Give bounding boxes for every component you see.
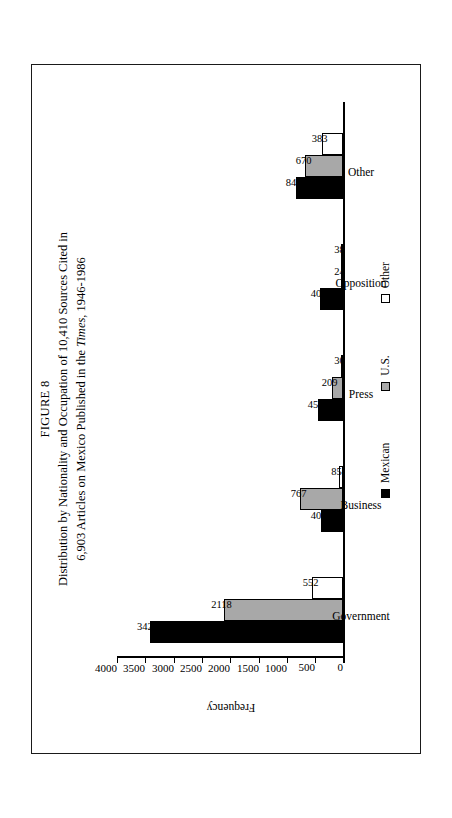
- y-axis-tick-label: 1500: [237, 663, 259, 674]
- legend-swatch-icon: [381, 489, 390, 498]
- legend-item-us[interactable]: U.S.: [379, 355, 391, 390]
- bar-value-label: 38: [334, 244, 345, 255]
- bar-mexican-press[interactable]: 457: [318, 399, 344, 421]
- bar-group: 45720930Press: [117, 324, 343, 435]
- bar-group-bars: 4052438: [117, 244, 343, 310]
- bar-mexican-other[interactable]: 845: [296, 177, 344, 199]
- figure-title-line-2: 6,903 Articles on Mexico Published in th…: [73, 64, 91, 754]
- bar-value-label: 383: [312, 133, 328, 144]
- figure-rotation-wrapper: FIGURE 8 Distribution by Nationality and…: [31, 64, 421, 754]
- y-axis-tick-label: 2000: [208, 663, 230, 674]
- x-axis-group-label: Business: [341, 499, 382, 511]
- bar-value-label: 3426: [137, 622, 158, 633]
- bar-us-press[interactable]: 209: [332, 377, 344, 399]
- bar-other-business[interactable]: 85: [339, 466, 344, 488]
- y-axis-tick-mark: [230, 658, 231, 663]
- x-axis-group-label: Press: [349, 388, 373, 400]
- bar-other-opposition[interactable]: 38: [341, 244, 343, 266]
- bar-us-government[interactable]: 2118: [224, 599, 344, 621]
- bar-other-government[interactable]: 552: [312, 577, 343, 599]
- figure-number: FIGURE 8: [37, 64, 55, 754]
- bar-group-bars: 40276785: [117, 466, 343, 532]
- plot-area: 05001000150020002500300035004000 Frequen…: [117, 102, 345, 658]
- legend-item-other[interactable]: Other: [379, 262, 391, 303]
- legend-item-mexican[interactable]: Mexican: [379, 443, 391, 498]
- y-axis-tick-label: 1000: [265, 663, 287, 674]
- figure-title-publication: Times: [74, 318, 88, 347]
- x-axis-line: [343, 102, 345, 658]
- bar-value-label: 845: [286, 177, 302, 188]
- y-axis-tick-label: 3000: [152, 663, 174, 674]
- legend-swatch-icon: [381, 382, 390, 391]
- bar-mexican-business[interactable]: 402: [321, 510, 344, 532]
- y-axis-tick-label: 500: [299, 663, 316, 674]
- chart-legend: MexicanU.S.Other: [379, 102, 391, 658]
- y-axis-tick-label: 2500: [180, 663, 202, 674]
- bar-group: 34262118552Government: [117, 547, 343, 658]
- legend-label: Mexican: [379, 443, 391, 483]
- bar-mexican-government[interactable]: 3426: [150, 621, 344, 643]
- y-axis-tick-label: 3500: [123, 663, 145, 674]
- y-axis-tick-mark: [343, 658, 344, 663]
- x-axis-group-label: Other: [348, 166, 374, 178]
- bar-group-bars: 45720930: [117, 355, 343, 421]
- bar-value-label: 405: [311, 288, 327, 299]
- bar-value-label: 85: [331, 467, 342, 478]
- bar-value-label: 767: [290, 489, 306, 500]
- bar-other-press[interactable]: 30: [341, 355, 343, 377]
- bar-value-label: 402: [311, 511, 327, 522]
- bar-group: 845670383Other: [117, 102, 343, 213]
- y-axis-title: Frequency: [207, 702, 256, 714]
- bar-group-bars: 845670383: [117, 133, 343, 199]
- bar-value-label: 670: [296, 155, 312, 166]
- bar-value-label: 30: [334, 356, 345, 367]
- y-axis-tick-label: 4000: [95, 663, 117, 674]
- bar-value-label: 457: [308, 400, 324, 411]
- bar-us-business[interactable]: 767: [300, 488, 343, 510]
- figure-title-block: FIGURE 8 Distribution by Nationality and…: [37, 64, 90, 754]
- bar-value-label: 209: [322, 378, 338, 389]
- figure-title-line-2-prefix: 6,903 Articles on Mexico Published in th…: [74, 347, 88, 561]
- bar-value-label: 552: [302, 578, 318, 589]
- bar-other-other[interactable]: 383: [322, 133, 344, 155]
- bar-group: 4052438Opposition: [117, 213, 343, 324]
- figure-title-line-2-suffix: , 1946-1986: [74, 257, 88, 317]
- y-axis-tick-label: 0: [338, 663, 344, 674]
- legend-swatch-icon: [381, 294, 390, 303]
- figure-title-line-1: Distribution by Nationality and Occupati…: [55, 64, 73, 754]
- bar-value-label: 2118: [211, 600, 232, 611]
- bar-us-other[interactable]: 670: [305, 155, 343, 177]
- legend-label: Other: [379, 262, 391, 288]
- figure-content: FIGURE 8 Distribution by Nationality and…: [31, 64, 421, 754]
- bar-mexican-opposition[interactable]: 405: [320, 288, 343, 310]
- y-axis-tick-mark: [145, 658, 146, 663]
- bar-group: 40276785Business: [117, 436, 343, 547]
- bar-value-label: 24: [334, 266, 345, 277]
- y-axis-tick-mark: [117, 658, 118, 663]
- legend-label: U.S.: [379, 355, 391, 375]
- bar-group-bars: 34262118552: [117, 577, 343, 643]
- y-axis-tick-mark: [202, 658, 203, 663]
